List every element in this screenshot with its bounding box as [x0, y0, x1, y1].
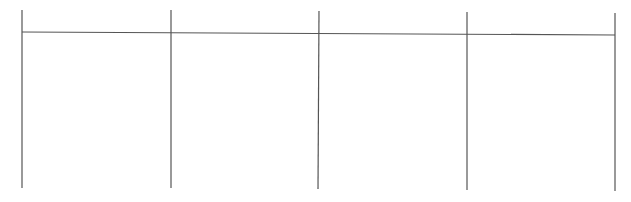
empty-table-grid [0, 0, 631, 202]
vertical-grid-line-3 [318, 11, 319, 189]
scanned-document-page [0, 0, 631, 202]
table-column-dividers [22, 10, 615, 191]
